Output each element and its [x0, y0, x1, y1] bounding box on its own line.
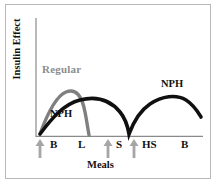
x-tick-label-hs: HS — [142, 139, 157, 150]
x-tick-label-s: S — [116, 139, 122, 150]
x-tick-label-b1: B — [50, 139, 57, 150]
nph-curve-label-right: NPH — [161, 79, 183, 90]
y-axis-label: Insulin Effect — [11, 13, 25, 85]
meal-arrow-hs — [130, 139, 139, 158]
x-tick-label-l: L — [78, 139, 85, 150]
insulin-effect-figure: Insulin Effect Regular NPH NPH B L S HS … — [0, 0, 220, 186]
meal-arrow-b1 — [36, 139, 45, 158]
x-tick-label-b2: B — [181, 139, 188, 150]
nph-curve-label-left: NPH — [50, 109, 72, 120]
x-axis-label: Meals — [87, 160, 114, 171]
meal-arrow-s — [104, 139, 113, 158]
regular-curve-label: Regular — [42, 64, 81, 75]
